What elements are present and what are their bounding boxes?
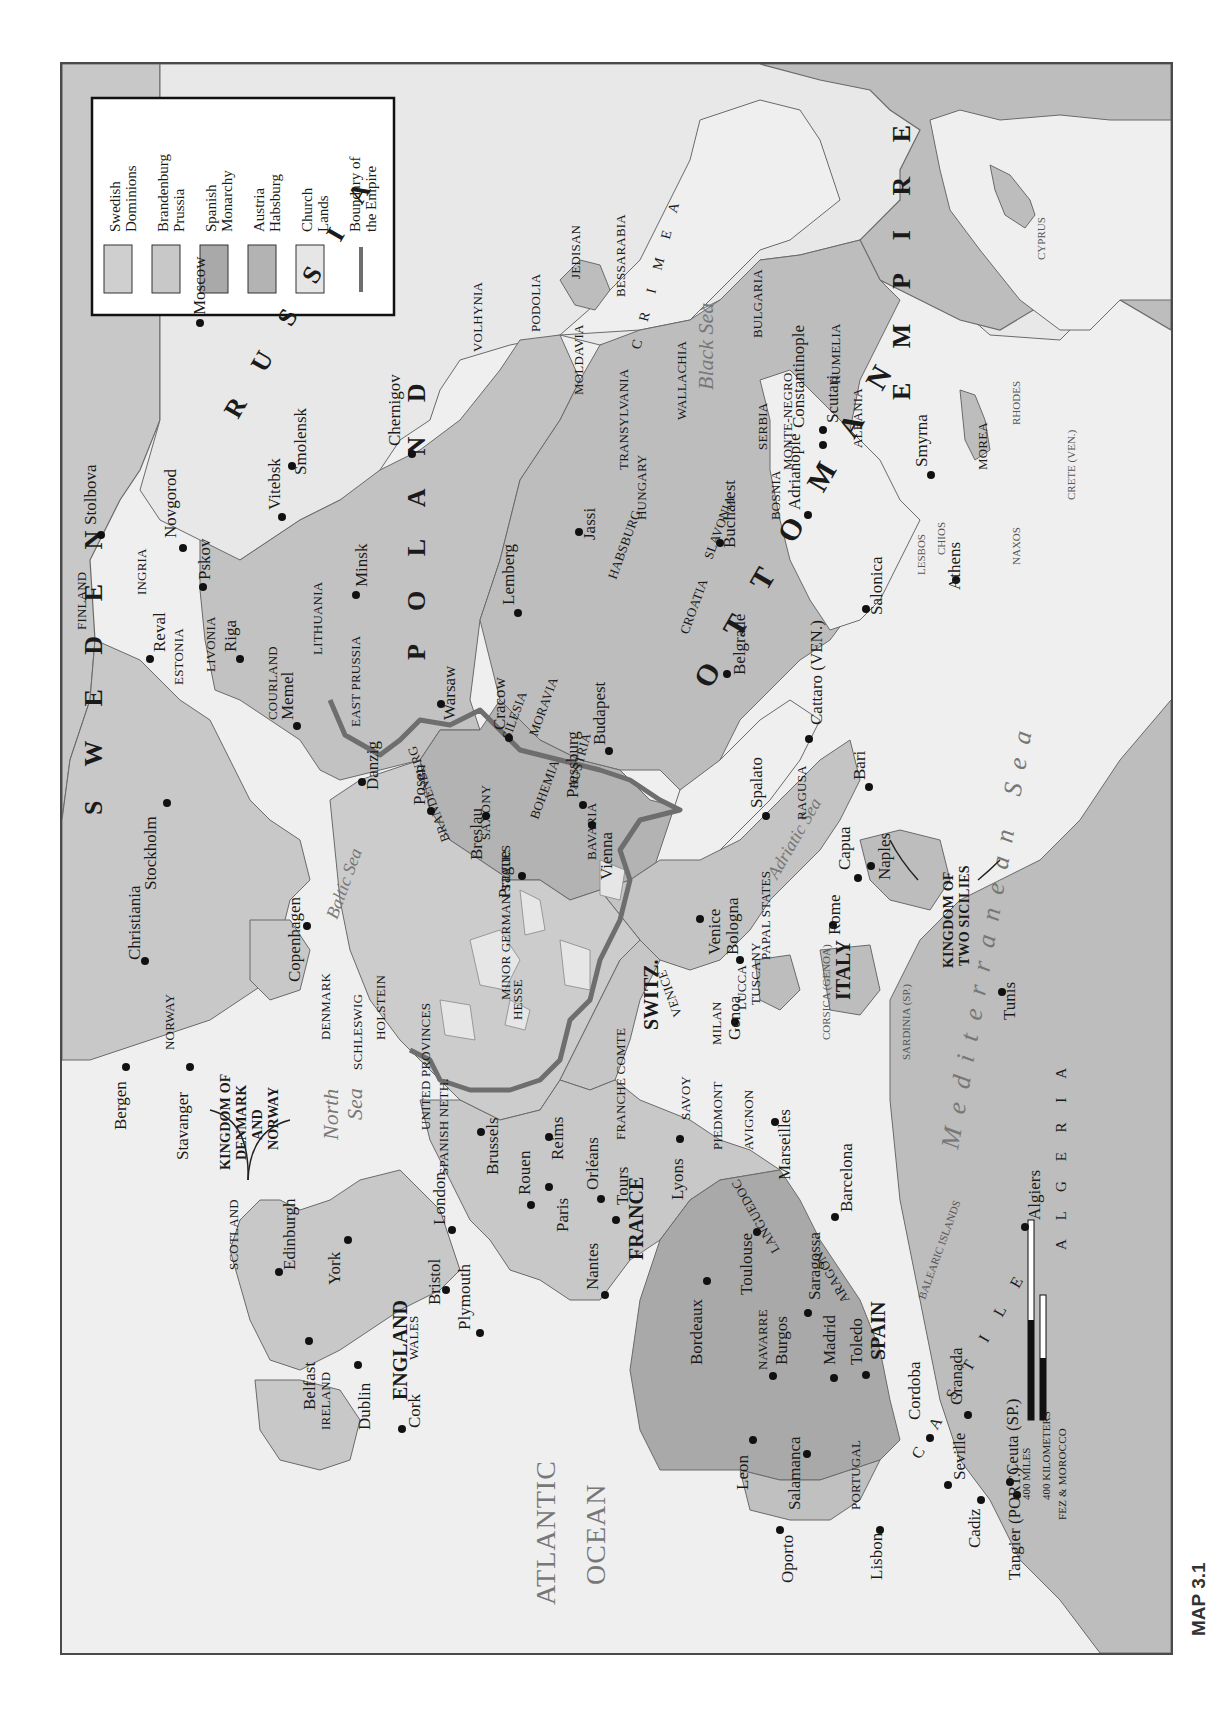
legend-label-austria-2: Habsburg: [267, 173, 283, 232]
historical-map: Swedish Dominions Brandenburg Prussia Sp…: [62, 64, 1171, 1653]
svg-text:Cracow: Cracow: [490, 676, 509, 730]
svg-text:Breslau: Breslau: [467, 808, 486, 860]
svg-text:Tangier (PORT.): Tangier (PORT.): [1005, 1467, 1024, 1580]
svg-text:Reval: Reval: [150, 612, 169, 652]
region-albania: ALBANIA: [850, 388, 865, 448]
svg-text:Lyons: Lyons: [668, 1158, 687, 1200]
island-lesbos-label: LESBOS: [915, 534, 927, 575]
region-bulgaria: BULGARIA: [750, 269, 765, 338]
label-north-sea: North: [318, 1089, 343, 1141]
svg-text:Seville: Seville: [950, 1433, 969, 1480]
svg-text:Dublin: Dublin: [355, 1382, 374, 1430]
region-ireland: IRELAND: [318, 1372, 333, 1430]
region-morea: MOREA: [975, 422, 990, 470]
legend-label-church-1: Church: [299, 187, 315, 232]
label-north-sea-2: Sea: [342, 1088, 367, 1120]
svg-text:Jassi: Jassi: [580, 508, 599, 540]
svg-text:Bari: Bari: [850, 750, 869, 780]
svg-text:Salamanca: Salamanca: [785, 1436, 804, 1510]
region-piedmont: PIEDMONT: [710, 1081, 725, 1150]
svg-text:Memel: Memel: [278, 672, 297, 720]
legend-label-brandenburg-1: Brandenburg: [155, 153, 171, 232]
region-wales: WALES: [406, 1316, 421, 1360]
city-smolensk: Smolensk: [288, 407, 310, 475]
city-bologna: Bologna: [723, 897, 744, 964]
region-moldavia: MOLDAVIA: [571, 324, 586, 395]
svg-text:DENMARK: DENMARK: [234, 1085, 249, 1160]
legend-label-swedish-1: Swedish: [107, 181, 123, 232]
svg-text:Ceuta (SP.): Ceuta (SP.): [1003, 1399, 1022, 1476]
map-frame: Swedish Dominions Brandenburg Prussia Sp…: [60, 62, 1173, 1655]
svg-text:Genoa: Genoa: [725, 995, 744, 1040]
svg-text:Capua: Capua: [835, 826, 854, 870]
label-black-sea: Black Sea: [693, 303, 718, 390]
region-serbia: SERBIA: [755, 402, 770, 450]
region-wallachia: WALLACHIA: [674, 341, 689, 420]
city-tangier: Tangier (PORT.): [1005, 1467, 1024, 1580]
legend-label-austria-1: Austria: [251, 188, 267, 233]
region-schleswig: SCHLESWIG: [350, 994, 365, 1070]
svg-text:Scutari: Scutari: [823, 375, 842, 423]
svg-text:Brussels: Brussels: [483, 1117, 502, 1175]
svg-text:Cordoba: Cordoba: [905, 1361, 924, 1420]
legend-swatch-austria: [248, 245, 276, 293]
svg-text:Novgorod: Novgorod: [161, 469, 180, 538]
city-lisbon: Lisbon: [867, 1526, 886, 1580]
region-navarre: NAVARRE: [755, 1309, 770, 1370]
region-ingria: INGRIA: [134, 548, 149, 595]
scale-label-km: 400 KILOMETERS: [1040, 1411, 1052, 1500]
region-united-provinces: UNITED PROVINCES: [418, 1003, 433, 1130]
city-tunis: Tunis: [998, 982, 1019, 1020]
svg-text:Orléans: Orléans: [583, 1137, 602, 1190]
city-genoa: Genoa: [725, 995, 744, 1040]
region-transylvania: TRANSYLVANIA: [616, 368, 631, 470]
svg-text:Naples: Naples: [875, 833, 894, 880]
legend-swatch-swedish: [104, 245, 132, 293]
svg-text:Marseilles: Marseilles: [775, 1109, 794, 1180]
svg-text:Minsk: Minsk: [352, 543, 371, 587]
svg-text:Toulouse: Toulouse: [737, 1233, 756, 1295]
city-warsaw: Warsaw: [437, 665, 459, 720]
legend-label-spanish-2: Monarchy: [219, 170, 235, 232]
region-norway: NORWAY: [162, 993, 177, 1050]
region-finland: FINLAND: [74, 572, 89, 630]
city-rome: Rome: [825, 894, 844, 935]
region-hungary: HUNGARY: [634, 454, 649, 520]
region-avignon: AVIGNON: [741, 1089, 756, 1150]
label-atlantic: ATLANTIC: [530, 1460, 561, 1605]
svg-text:Smolensk: Smolensk: [291, 407, 310, 475]
svg-text:Oporto: Oporto: [778, 1535, 797, 1583]
city-athens: Athens: [945, 542, 964, 590]
svg-text:Barcelona: Barcelona: [837, 1143, 856, 1212]
svg-text:Burgos: Burgos: [772, 1316, 791, 1365]
svg-text:Toledo: Toledo: [847, 1318, 866, 1365]
region-hesse: HESSE: [510, 979, 525, 1020]
legend-label-brandenburg-2: Prussia: [171, 188, 187, 232]
svg-text:Christiania: Christiania: [125, 885, 144, 960]
svg-text:London: London: [430, 1172, 449, 1225]
svg-text:Salonica: Salonica: [867, 556, 886, 615]
svg-text:Moscow: Moscow: [190, 256, 209, 315]
label-spain: SPAIN: [867, 1301, 889, 1360]
city-bucharest: Bucharest: [716, 480, 739, 548]
city-cattaro: Cattaro (VEN.): [805, 620, 826, 743]
region-jedisan: JEDISAN: [568, 224, 583, 279]
legend-label-spanish-1: Spanish: [203, 184, 219, 232]
region-papal-states: PAPAL STATES: [758, 871, 773, 960]
svg-text:Bucharest: Bucharest: [720, 480, 739, 548]
region-ragusa: RAGUSA: [794, 765, 809, 820]
svg-text:Leon: Leon: [733, 1455, 752, 1490]
svg-text:Vienna: Vienna: [597, 831, 616, 880]
region-spanish-neth: SPANISH NETH.: [436, 1078, 451, 1175]
svg-text:Rome: Rome: [825, 894, 844, 935]
svg-text:Stockholm: Stockholm: [141, 816, 160, 890]
svg-text:Pskov: Pskov: [195, 538, 214, 580]
svg-text:Rouen: Rouen: [515, 1150, 534, 1195]
svg-text:Edinburgh: Edinburgh: [280, 1198, 299, 1270]
legend-swatch-brandenburg: [152, 245, 180, 293]
label-ocean: OCEAN: [580, 1484, 611, 1585]
svg-text:Cadiz: Cadiz: [965, 1508, 984, 1548]
svg-text:Saragossa: Saragossa: [805, 1232, 824, 1300]
region-portugal: PORTUGAL: [848, 1440, 863, 1510]
region-bosnia: BOSNIA: [768, 470, 783, 520]
